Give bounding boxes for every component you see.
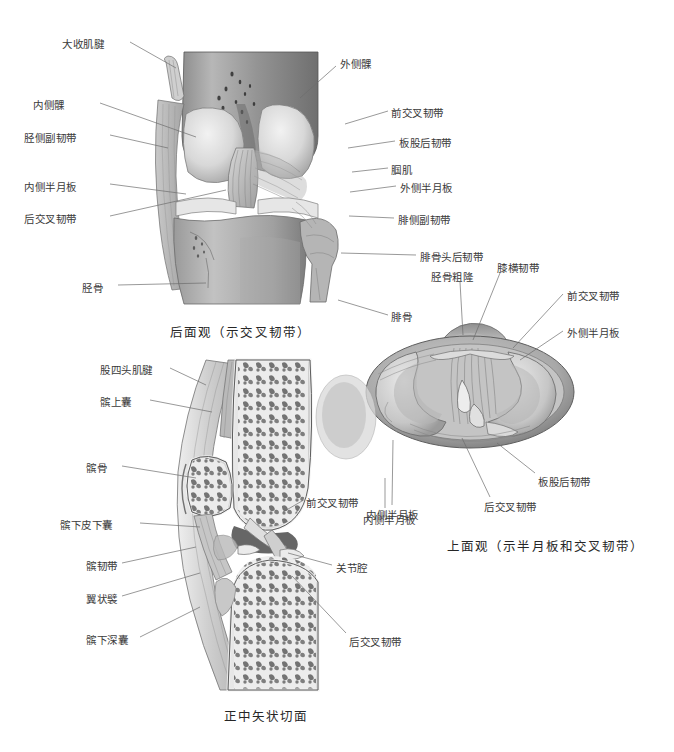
leader-line-posterior-view-right-7 [338,300,388,315]
label-sagittal-view-left-3: 髌下皮下囊 [60,519,113,531]
label-sagittal-view-left-1: 髌上囊 [100,396,132,408]
label-posterior-view-left-3: 内侧半月板 [24,181,77,193]
label-superior-view-right-2: 板股后韧带 [538,476,591,488]
leader-line-posterior-view-right-0 [300,66,336,98]
label-posterior-view-right-0: 外侧髁 [340,58,372,70]
leader-line-posterior-view-left-2 [110,135,168,148]
label-posterior-view-left-5: 胫骨 [82,282,103,294]
label-posterior-view-left-2: 胫侧副韧带 [24,132,77,144]
leader-line-posterior-view-left-4 [110,190,226,216]
leader-line-posterior-view-right-3 [352,168,388,172]
label-posterior-view-right-1: 前交叉韧带 [391,107,444,119]
leader-line-posterior-view-right-4 [350,186,396,192]
leader-line-posterior-view-right-5 [349,216,394,218]
leader-line-posterior-view-right-6 [341,253,416,255]
label-posterior-view-right-4: 外侧半月板 [400,182,453,194]
figure-caption-sagittal-view: 正中矢状切面 [224,706,309,725]
label-sagittal-view-right-3: 后交叉韧带 [349,636,402,648]
label-superior-view-top-1: 膝横韧带 [497,262,539,274]
leader-line-superior-view-top-1 [473,273,500,340]
label-posterior-view-right-5: 腓侧副韧带 [398,214,451,226]
leader-line-superior-view-left-0 [392,440,393,505]
leader-line-sagittal-view-right-0 [283,501,302,512]
leader-line-sagittal-view-left-1 [150,400,212,412]
label-sagittal-view-right-0: 前交叉韧带 [306,497,359,509]
label-posterior-view-left-1: 内侧髁 [33,99,65,111]
leader-line-posterior-view-right-1 [345,111,388,124]
figure-caption-superior-view: 上面观（示半月板和交叉韧带） [447,536,644,555]
leader-line-posterior-view-left-0 [130,42,176,68]
leader-line-posterior-view-right-2 [348,141,395,148]
label-posterior-view-right-2: 板股后韧带 [399,137,452,149]
label-sagittal-view-right-1: 内侧半月板 [363,514,416,526]
leader-line-sagittal-view-right-2 [288,553,332,565]
label-superior-view-top-0: 胫骨粗隆 [431,271,473,283]
label-posterior-view-right-3: 腘肌 [391,164,412,176]
label-posterior-view-left-4: 后交叉韧带 [24,213,77,225]
label-sagittal-view-left-5: 翼状襞 [86,593,118,605]
label-posterior-view-right-7: 腓骨 [391,311,412,323]
label-superior-view-right-0: 前交叉韧带 [567,290,620,302]
leader-line-sagittal-view-left-5 [122,573,200,596]
figure-caption-posterior-view: 后面观（示交叉韧带） [170,322,311,341]
label-posterior-view-right-6: 腓骨头后韧带 [420,251,484,263]
leader-line-sagittal-view-left-6 [140,607,200,637]
label-superior-view-right-1: 外侧半月板 [567,327,620,339]
leader-line-sagittal-view-left-0 [170,368,206,385]
label-sagittal-view-left-6: 髌下深囊 [86,634,128,646]
leader-line-posterior-view-left-1 [100,103,196,137]
leader-line-superior-view-right-0 [513,294,563,348]
leader-line-posterior-view-left-3 [110,184,186,194]
label-sagittal-view-right-2: 关节腔 [336,562,368,574]
leader-line-superior-view-top-0 [460,282,463,335]
label-posterior-view-left-0: 大收肌腱 [62,38,104,50]
label-sagittal-view-left-2: 髌骨 [86,462,107,474]
leader-line-sagittal-view-left-2 [122,466,196,478]
leader-line-sagittal-view-left-4 [122,547,196,563]
leader-line-superior-view-right-1 [520,331,563,360]
leader-line-sagittal-view-left-3 [140,523,200,527]
leader-line-superior-view-right-2 [497,443,535,473]
label-sagittal-view-left-4: 髌韧带 [86,560,118,572]
leader-line-superior-view-right-3 [462,438,490,497]
anatomy-figure-page: 大收肌腱内侧髁胫侧副韧带内侧半月板后交叉韧带胫骨外侧髁前交叉韧带板股后韧带腘肌外… [0,0,674,752]
leader-line-posterior-view-left-5 [118,283,206,285]
label-sagittal-view-left-0: 股四头肌腱 [100,364,153,376]
leader-line-sagittal-view-right-3 [292,576,346,633]
label-superior-view-right-3: 后交叉韧带 [484,501,537,513]
